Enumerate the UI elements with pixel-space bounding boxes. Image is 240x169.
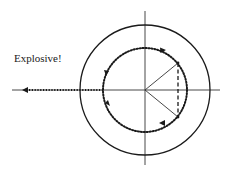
arrowhead-left-icon	[22, 87, 28, 93]
point-upper	[177, 62, 180, 65]
radius-upper	[145, 63, 178, 90]
phasor-diagram	[0, 0, 240, 169]
arrowhead-bottom-icon	[159, 120, 165, 126]
point-lower	[177, 116, 180, 119]
radius-lower	[145, 90, 178, 117]
